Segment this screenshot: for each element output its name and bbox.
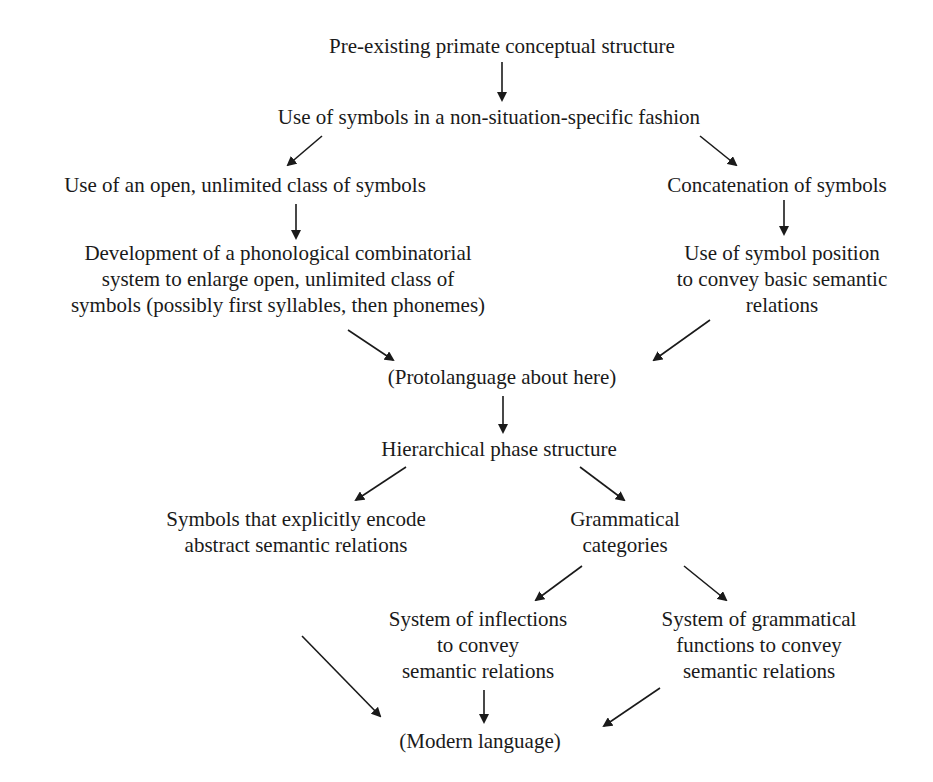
node-modern-language: (Modern language) bbox=[399, 728, 561, 754]
arrow-n10-n12 bbox=[684, 566, 726, 600]
arrow-n9-n13 bbox=[302, 636, 380, 716]
arrow-n2-n4 bbox=[700, 136, 736, 165]
diagram-canvas: Pre-existing primate conceptual structur… bbox=[0, 0, 933, 782]
arrow-n8-n9 bbox=[356, 467, 406, 500]
node-protolanguage: (Protolanguage about here) bbox=[388, 364, 617, 390]
arrow-n8-n10 bbox=[580, 467, 624, 500]
node-grammatical-categories: Grammatical categories bbox=[570, 506, 680, 558]
node-symbol-position: Use of symbol position to convey basic s… bbox=[677, 240, 888, 318]
node-non-situation-specific-symbols: Use of symbols in a non-situation-specif… bbox=[278, 104, 700, 130]
node-hierarchical-phase-structure: Hierarchical phase structure bbox=[381, 436, 617, 462]
node-concatenation: Concatenation of symbols bbox=[667, 172, 886, 198]
arrow-n10-n11 bbox=[536, 566, 582, 600]
arrow-n2-n3 bbox=[288, 136, 322, 165]
node-inflections-system: System of inflections to convey semantic… bbox=[389, 606, 567, 684]
node-open-unlimited-class: Use of an open, unlimited class of symbo… bbox=[64, 172, 426, 198]
arrow-n6-n7 bbox=[654, 320, 710, 360]
node-abstract-semantic-symbols: Symbols that explicitly encode abstract … bbox=[166, 506, 426, 558]
node-pre-existing-primate-structure: Pre-existing primate conceptual structur… bbox=[329, 33, 675, 59]
arrow-n5-n7 bbox=[348, 330, 393, 360]
node-phonological-system: Development of a phonological combinator… bbox=[71, 240, 485, 318]
arrow-n12-n13 bbox=[604, 688, 660, 726]
node-grammatical-functions-system: System of grammatical functions to conve… bbox=[662, 606, 857, 684]
